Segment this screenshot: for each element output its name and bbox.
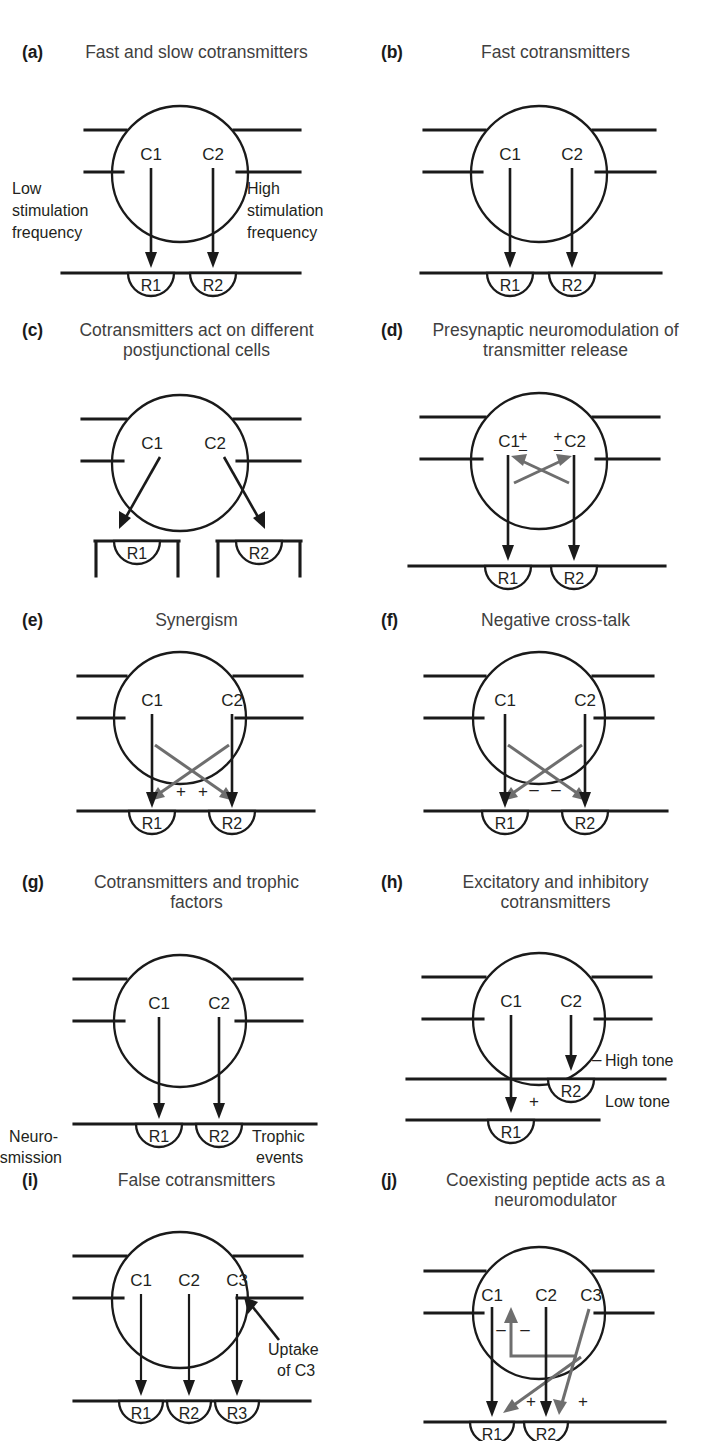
transmitter-label-c2: C2: [221, 691, 243, 710]
arrowhead-c1: [486, 1401, 498, 1417]
transmitter-label-c2: C2: [204, 434, 226, 453]
panel-b-header: (b) Fast cotransmitters: [359, 42, 718, 62]
note-right-line1: Trophic: [252, 1128, 305, 1145]
arrowhead-c2: [207, 252, 219, 268]
arrowhead-c3: [231, 1380, 243, 1396]
panel-h-title: Excitatory and inhibitory cotransmitters: [425, 872, 687, 913]
crosstalk-arrow-c1-to-r2: [508, 745, 577, 793]
panel-j-title: Coexisting peptide acts as a neuromodula…: [411, 1170, 701, 1211]
panel-h-letter: (h): [381, 872, 403, 893]
panel-g-header: (g) Cotransmitters and trophic factors: [0, 872, 359, 913]
arrowhead-c1: [502, 545, 514, 561]
uptake-arrow: [252, 1306, 279, 1340]
receptor-label-r1: R1: [142, 815, 163, 832]
panel-i-title: False cotransmitters: [118, 1170, 276, 1190]
varicosity: [471, 393, 607, 529]
panel-f-art: C1 C2 – – R1 R2: [359, 630, 718, 835]
transmitter-label-c1: C1: [141, 434, 163, 453]
arrowhead-modulation-right: [556, 454, 572, 466]
panel-d-header: (d) Presynaptic neuromodulation of trans…: [359, 320, 718, 361]
arrowhead-c1: [505, 1097, 517, 1113]
panel-i-letter: (i): [22, 1170, 38, 1191]
panel-h-header: (h) Excitatory and inhibitory cotransmit…: [359, 872, 718, 913]
arrowhead-c2: [568, 545, 580, 561]
panel-g-letter: (g): [22, 872, 44, 893]
receptor-label-r1: R1: [127, 545, 148, 562]
sign-low-tone: +: [529, 1092, 539, 1111]
sign-right-minus: –: [551, 780, 561, 799]
panel-d: (d) Presynaptic neuromodulation of trans…: [359, 320, 718, 576]
panel-c: (c) Cotransmitters act on different post…: [0, 320, 359, 576]
panel-a-art: C1 C2 R1 R2 Low stimulation frequency Hi…: [0, 62, 359, 282]
transmitter-label-c1: C1: [498, 432, 520, 451]
panel-i: (i) False cotransmitters C1 C2 C3 Uptake…: [0, 1170, 359, 1420]
panel-d-title: Presynaptic neuromodulation of transmitt…: [411, 320, 701, 361]
receptor-label-r1: R1: [498, 570, 519, 587]
sign-plus-2: +: [578, 1392, 588, 1411]
receptor-label-r1: R1: [482, 1426, 503, 1441]
receptor-label-r2: R2: [179, 1405, 200, 1422]
note-left-line2: transmission: [0, 1149, 62, 1166]
panel-f-header: (f) Negative cross-talk: [359, 610, 718, 630]
panel-e-header: (e) Synergism: [0, 610, 359, 630]
transmitter-label-c1: C1: [500, 992, 522, 1011]
panel-a-title: Fast and slow cotransmitters: [85, 42, 308, 62]
arrowhead-c2: [183, 1380, 195, 1396]
transmitter-label-c2: C2: [535, 1286, 557, 1305]
panel-h-art: C1 C2 – High tone R2 + Low tone R1: [359, 913, 718, 1143]
panel-i-art: C1 C2 C3 Uptake of C3 R1 R2 R3: [0, 1190, 359, 1420]
receptor-label-r3: R3: [227, 1405, 248, 1422]
arrowhead-c1: [499, 792, 511, 808]
arrowhead-c1: [145, 252, 157, 268]
uptake-label-line2: of C3: [277, 1362, 315, 1379]
note-right-line1: High: [247, 180, 280, 197]
arrowhead-c2: [540, 1401, 552, 1417]
panel-d-letter: (d): [381, 320, 403, 341]
panel-b-letter: (b): [381, 42, 403, 63]
panel-f-letter: (f): [381, 610, 398, 631]
receptor-label-r1: R1: [500, 277, 521, 294]
transmitter-label-c1: C1: [148, 994, 170, 1013]
transmitter-label-c2: C2: [574, 691, 596, 710]
transmitter-label-c2: C2: [208, 994, 230, 1013]
panel-j: (j) Coexisting peptide acts as a neuromo…: [359, 1170, 718, 1441]
panel-h: (h) Excitatory and inhibitory cotransmit…: [359, 872, 718, 1143]
note-right-line2: stimulation: [247, 202, 323, 219]
varicosity: [473, 953, 605, 1085]
receptor-label-r1: R1: [149, 1128, 170, 1145]
receptor-label-r2: R2: [561, 1083, 582, 1100]
panel-g: (g) Cotransmitters and trophic factors C…: [0, 872, 359, 1143]
arrowhead-c1: [504, 252, 516, 268]
synergy-arrow-c2-to-r1: [160, 745, 229, 793]
modulation-arrow-to-r1: [514, 1357, 581, 1405]
panel-j-letter: (j): [381, 1170, 397, 1191]
panel-b-art: C1 C2 R1 R2: [359, 62, 718, 282]
sign-left-minus: –: [529, 780, 539, 799]
transmitter-label-c1: C1: [140, 145, 162, 164]
transmitter-label-c2: C2: [202, 145, 224, 164]
panel-f-title: Negative cross-talk: [481, 610, 630, 630]
varicosity: [112, 106, 248, 242]
panel-g-art: C1 C2 R1 R2 Neuro- transmission Trophic …: [0, 913, 359, 1143]
panel-e-art: C1 C2 + + R1 R2: [0, 630, 359, 835]
varicosity: [114, 955, 246, 1087]
arrowhead-c2: [565, 1055, 577, 1071]
panel-c-letter: (c): [22, 320, 43, 341]
arrowhead-c2: [226, 792, 238, 808]
receptor-label-r1: R1: [141, 277, 162, 294]
sign-minus-2: –: [520, 1320, 530, 1339]
panel-g-title: Cotransmitters and trophic factors: [66, 872, 328, 913]
panel-j-header: (j) Coexisting peptide acts as a neuromo…: [359, 1170, 718, 1211]
panel-c-header: (c) Cotransmitters act on different post…: [0, 320, 359, 361]
panel-i-header: (i) False cotransmitters: [0, 1170, 359, 1190]
panel-b: (b) Fast cotransmitters C1 C2 R1 R2: [359, 42, 718, 282]
arrowhead-c2: [213, 1103, 225, 1119]
arrowhead-c1: [153, 1103, 165, 1119]
receptor-label-r1: R1: [501, 1124, 522, 1141]
arrowhead-c1: [135, 1380, 147, 1396]
panel-a-header: (a) Fast and slow cotransmitters: [0, 42, 359, 62]
transmitter-label-c2: C2: [561, 145, 583, 164]
receptor-label-r2: R2: [209, 1128, 230, 1145]
sign-minus-1: –: [496, 1320, 506, 1339]
